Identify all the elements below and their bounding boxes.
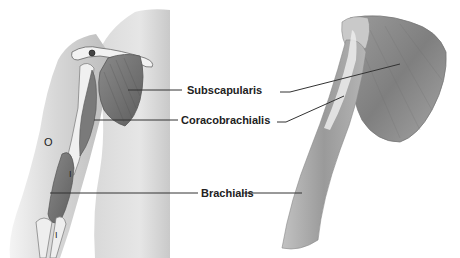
anatomy-illustration: O I I [0, 0, 460, 258]
right-figure [282, 16, 446, 249]
insertion-marker-upper: I [69, 169, 72, 179]
coracoid-process-dot [89, 50, 95, 56]
label-coracobrachialis: Coracobrachialis [181, 114, 270, 126]
origin-marker: O [44, 136, 53, 148]
arm-right [282, 40, 366, 249]
left-figure: O I I [10, 9, 170, 258]
torso [94, 9, 170, 258]
label-subscapularis: Subscapularis [187, 84, 262, 96]
label-brachialis: Brachialis [201, 187, 254, 199]
insertion-marker-lower: I [55, 230, 58, 240]
